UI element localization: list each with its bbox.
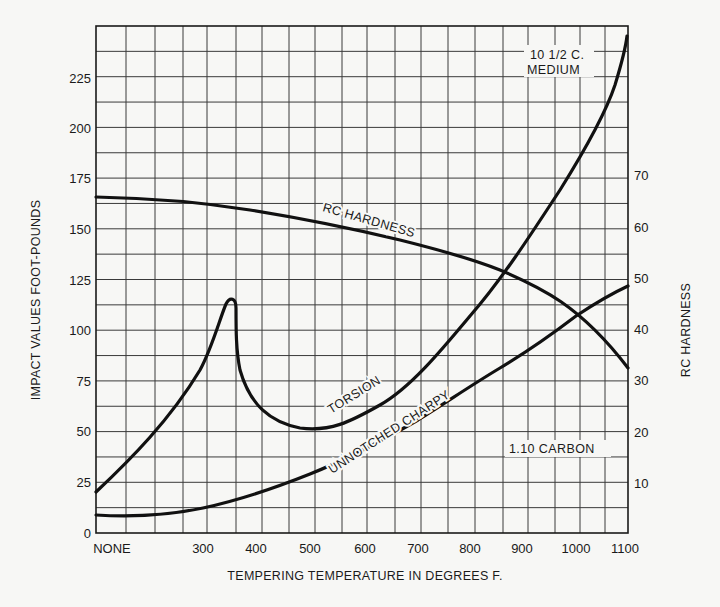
y-tick-label: 75: [77, 374, 91, 389]
y-axis-left-ticks: 0255075100125150175200225: [69, 71, 91, 541]
y-tick-label: 25: [77, 475, 91, 490]
y2-axis-title: RC HARDNESS: [679, 283, 693, 377]
y2-tick-label: 10: [634, 476, 648, 491]
torsion-curve: [96, 36, 627, 492]
unnotched-charpy-curve: [96, 286, 628, 516]
y-tick-label: 225: [69, 71, 91, 86]
x-tick-label: 500: [299, 541, 321, 556]
x-tick-label: 400: [245, 541, 267, 556]
chart: RC HARDNESS TORSION UNNOTCHED CHARPY 10 …: [0, 0, 720, 607]
y-tick-label: 125: [69, 273, 91, 288]
x-tick-label: 900: [511, 541, 533, 556]
medium-label-line2: MEDIUM: [527, 63, 580, 77]
y-tick-label: 50: [77, 424, 91, 439]
medium-label-line1: 10 1/2 C.: [530, 48, 584, 62]
y-tick-label: 0: [84, 526, 91, 541]
y-tick-label: 150: [69, 222, 91, 237]
x-tick-label: 600: [354, 541, 376, 556]
x-tick-label: NONE: [93, 541, 131, 556]
x-tick-label: 300: [192, 541, 214, 556]
label-carbon: 1.10 CARBON: [505, 440, 611, 457]
y2-tick-label: 20: [634, 425, 648, 440]
carbon-label: 1.10 CARBON: [509, 442, 595, 456]
x-axis-ticks: NONE30040050060070080090010001100: [93, 541, 639, 556]
y2-tick-label: 40: [634, 322, 648, 337]
y-tick-label: 100: [69, 323, 91, 338]
y2-tick-label: 70: [634, 168, 648, 183]
y-tick-label: 200: [69, 121, 91, 136]
x-axis-title: TEMPERING TEMPERATURE IN DEGREES F.: [227, 569, 502, 583]
x-tick-label: 1000: [562, 541, 591, 556]
x-tick-label: 800: [459, 541, 481, 556]
y2-tick-label: 50: [634, 271, 648, 286]
y-tick-label: 175: [69, 171, 91, 186]
y2-tick-label: 30: [634, 373, 648, 388]
y-axis-title: IMPACT VALUES FOOT-POUNDS: [29, 200, 43, 401]
x-tick-label: 1100: [611, 541, 639, 556]
y2-tick-label: 60: [634, 220, 648, 235]
y-axis-right-ticks: 10203040506070: [634, 168, 648, 491]
torsion-label: TORSION: [325, 373, 383, 416]
label-medium: 10 1/2 C. MEDIUM: [524, 45, 594, 77]
x-tick-label: 700: [407, 541, 429, 556]
label-torsion: TORSION: [325, 373, 383, 416]
